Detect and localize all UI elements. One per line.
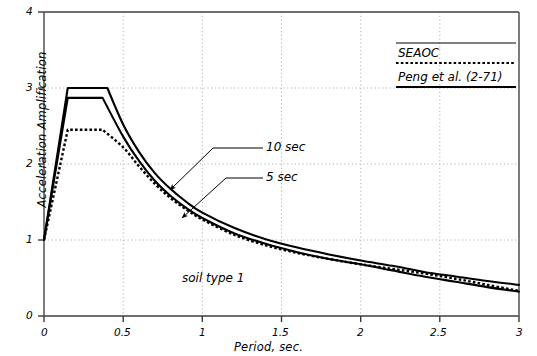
xtick-label-0: 0 <box>41 326 48 338</box>
legend-item-seaoc: SEAOC <box>398 46 439 60</box>
x-axis-title: Period, sec. <box>0 340 537 354</box>
y-axis-title: Acceleration Amplification <box>35 52 49 208</box>
xtick-label-1.5: 1.5 <box>272 326 289 338</box>
y-axis-title-wrapper: Acceleration Amplification <box>31 30 50 230</box>
ytick-label-4: 4 <box>26 5 33 17</box>
ytick-label-1: 1 <box>26 233 33 245</box>
annotation-5-sec: 5 sec <box>266 170 298 184</box>
ytick-label-0: 0 <box>26 309 33 321</box>
leader-line-10-sec <box>170 148 263 190</box>
xtick-label-3: 3 <box>516 326 523 338</box>
grid-lines <box>44 12 519 316</box>
xtick-label-0.5: 0.5 <box>114 326 131 338</box>
xtick-label-2.5: 2.5 <box>430 326 447 338</box>
xtick-label-1: 1 <box>199 326 206 338</box>
legend-item-peng: Peng et al. (2-71) <box>398 70 502 84</box>
annotation-soil-type: soil type 1 <box>182 271 244 285</box>
xtick-label-2: 2 <box>357 326 364 338</box>
annotation-10-sec: 10 sec <box>266 140 305 154</box>
chart-figure: 0 1 2 3 4 0 0.5 1 1.5 2 2.5 3 Period, se… <box>0 0 537 356</box>
